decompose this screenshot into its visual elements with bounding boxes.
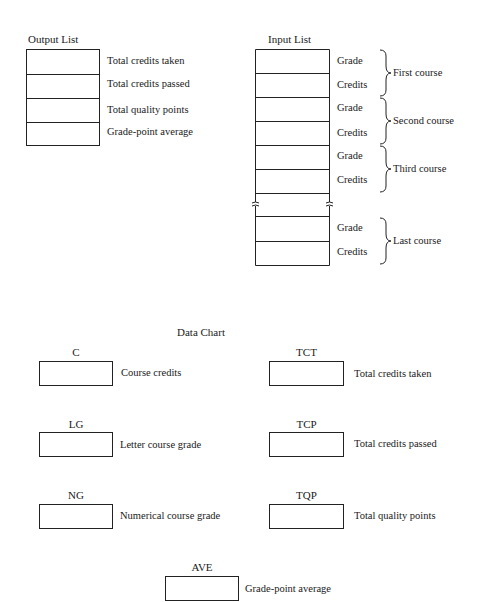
input-row-label: Credits (337, 79, 367, 91)
variable-name: TCT (269, 346, 344, 358)
course-group-label: Last course (393, 235, 441, 247)
variable-name: C (39, 346, 113, 358)
input-row-label: Grade (337, 150, 363, 162)
variable-box-ave (165, 576, 239, 601)
input-row-label: Credits (337, 174, 367, 186)
course-group-label: Second course (393, 115, 454, 127)
variable-name: LG (39, 418, 113, 430)
variable-desc: Total credits passed (354, 438, 437, 450)
input-row-label: Credits (337, 246, 367, 258)
brace-icon (380, 50, 391, 264)
variable-name: AVE (165, 561, 239, 573)
variable-box-ng (39, 504, 113, 529)
variable-name: TQP (269, 489, 344, 501)
input-row-label: Grade (337, 55, 363, 67)
input-row-label: Credits (337, 127, 367, 139)
variable-box-c (39, 361, 113, 386)
variable-name: TCP (269, 418, 344, 430)
input-row-label: Grade (337, 102, 363, 114)
input-row-label: Grade (337, 222, 363, 234)
data-chart-title: Data Chart (177, 326, 225, 338)
variable-desc: Numerical course grade (120, 510, 220, 522)
variable-box-tcp (269, 432, 344, 457)
variable-desc: Total quality points (354, 510, 436, 522)
variable-desc: Letter course grade (120, 439, 201, 451)
course-group-label: Third course (393, 163, 446, 175)
course-group-label: First course (393, 67, 442, 79)
variable-name: NG (39, 489, 113, 501)
variable-box-lg (39, 432, 113, 457)
variable-box-tct (269, 361, 344, 386)
variable-desc: Total credits taken (354, 368, 431, 380)
variable-box-tqp (269, 504, 344, 529)
variable-desc: Course credits (121, 367, 181, 379)
variable-desc: Grade-point average (245, 583, 331, 595)
